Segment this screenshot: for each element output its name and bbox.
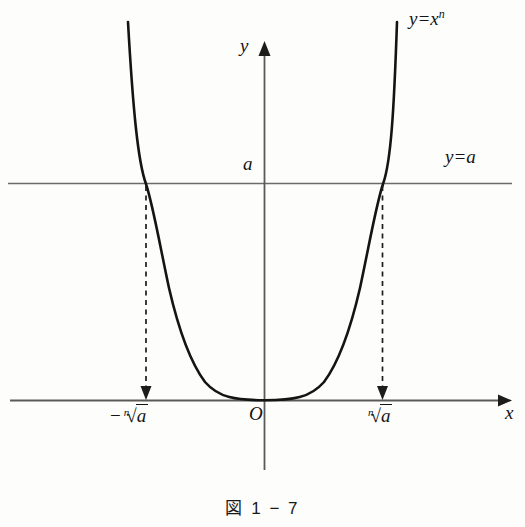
label-nth-root-a: n√a <box>365 406 392 425</box>
radical-right-radicand: a <box>380 404 393 426</box>
label-negative-sign: − <box>110 405 121 426</box>
radical-right: n√a <box>365 406 392 425</box>
radical-left-radicand: a <box>136 404 149 426</box>
radical-left-index: n <box>124 406 130 418</box>
label-curve-exponent: n <box>439 7 445 21</box>
dropline-left-arrowhead-icon <box>141 386 152 400</box>
label-x-axis: x <box>505 403 513 422</box>
label-curve-equation: y=xn <box>409 8 445 28</box>
radical-right-index: n <box>368 406 374 418</box>
y-axis-arrowhead-icon <box>259 41 271 56</box>
figure-caption: 図 1 − 7 <box>0 494 525 519</box>
label-a-value: a <box>243 154 253 173</box>
label-y-axis: y <box>240 36 248 55</box>
figure-container: y=xn y=a a y x O −n√a n√a 図 1 − 7 <box>0 0 525 527</box>
label-horizontal-line-equation: y=a <box>445 147 476 166</box>
dropline-right-arrowhead-icon <box>377 386 388 400</box>
radical-left: n√a <box>121 406 148 425</box>
label-curve-equation-base: y=x <box>409 8 439 29</box>
label-origin: O <box>249 404 263 423</box>
function-plot <box>0 0 525 527</box>
label-negative-nth-root-a: −n√a <box>110 406 148 425</box>
curve-y-equals-x-to-n <box>128 22 397 400</box>
